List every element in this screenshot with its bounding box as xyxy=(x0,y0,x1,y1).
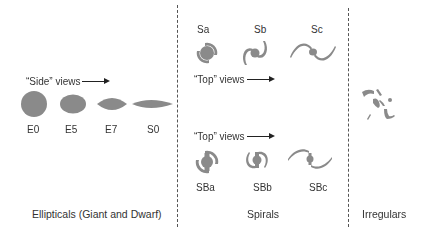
divider-spirals-irregulars xyxy=(348,8,349,227)
top-views-label-barred: “Top” views xyxy=(194,131,273,142)
side-views-text: “Side” views xyxy=(26,76,80,87)
galaxy-e0-icon xyxy=(21,91,47,117)
label-e7: E7 xyxy=(105,124,117,135)
galaxy-sbc-icon xyxy=(288,149,332,168)
top-views-label-normal: “Top” views xyxy=(194,74,273,85)
galaxy-s0-icon xyxy=(132,100,173,108)
galaxy-sbb-icon xyxy=(246,152,268,169)
galaxy-sa-icon xyxy=(197,43,218,64)
side-views-label: “Side” views xyxy=(26,76,108,87)
galaxy-sb-icon xyxy=(243,41,267,65)
label-s0: S0 xyxy=(147,124,159,135)
label-e5: E5 xyxy=(65,124,77,135)
galaxy-e5-icon xyxy=(60,95,86,114)
galaxy-diagram-graphics xyxy=(0,0,423,241)
label-sbc: SBc xyxy=(309,182,327,193)
label-sc: Sc xyxy=(311,24,323,35)
label-sbb: SBb xyxy=(253,182,272,193)
top-views-text-normal: “Top” views xyxy=(194,74,245,85)
arrow-right-icon xyxy=(82,81,108,82)
arrow-right-icon xyxy=(247,79,273,80)
arrow-right-icon xyxy=(247,136,273,137)
divider-ellipticals-spirals xyxy=(177,5,178,227)
label-sa: Sa xyxy=(197,24,209,35)
category-spirals: Spirals xyxy=(247,208,279,220)
galaxy-irregular-icon xyxy=(362,89,395,120)
category-irregulars: Irregulars xyxy=(362,208,406,220)
label-sb: Sb xyxy=(254,24,266,35)
category-ellipticals: Ellipticals (Giant and Dwarf) xyxy=(32,208,162,220)
top-views-text-barred: “Top” views xyxy=(194,131,245,142)
galaxy-e7-icon xyxy=(97,98,127,110)
label-e0: E0 xyxy=(27,124,39,135)
galaxy-sc-icon xyxy=(290,43,336,60)
label-sba: SBa xyxy=(196,182,215,193)
galaxy-sba-icon xyxy=(196,151,218,173)
